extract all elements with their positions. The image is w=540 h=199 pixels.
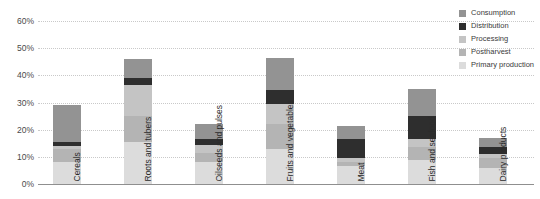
legend-item[interactable]: Processing [459, 34, 534, 44]
bar-segment[interactable] [266, 58, 294, 91]
legend-label: Consumption [471, 9, 515, 17]
category-label: Fruits and vegetables [286, 100, 295, 183]
y-axis-tick-label: 40% [17, 71, 34, 80]
legend-label: Processing [471, 35, 508, 43]
bar-segment[interactable] [124, 59, 152, 78]
category-label: Fish and seafood [427, 116, 436, 183]
bar-segment[interactable] [337, 139, 365, 158]
bar-segment[interactable] [124, 78, 152, 85]
stacked-bar-chart: 0%10%20%30%40%50%60% CerealsRoots and tu… [0, 0, 540, 199]
bar-segment[interactable] [408, 89, 436, 116]
legend-item[interactable]: Distribution [459, 21, 534, 31]
legend-label: Distribution [471, 22, 509, 30]
bar-segment[interactable] [124, 85, 152, 116]
bar-segment[interactable] [53, 105, 81, 142]
y-axis-tick-label: 30% [17, 98, 34, 107]
category-label: Meat [356, 162, 365, 183]
x-axis-line [38, 184, 534, 185]
category-label: Cereals [73, 152, 82, 183]
y-axis-tick-label: 60% [17, 17, 34, 26]
category-label: Roots and tubers [144, 116, 153, 183]
y-axis-tick-label: 20% [17, 125, 34, 134]
legend-label: Primary production [471, 61, 534, 69]
y-axis-tick-label: 0% [22, 180, 34, 189]
legend-swatch-icon [459, 10, 466, 17]
legend-swatch-icon [459, 36, 466, 43]
legend-swatch-icon [459, 49, 466, 56]
y-axis-tick-label: 10% [17, 153, 34, 162]
legend-item[interactable]: Consumption [459, 8, 534, 18]
category-label: Oilseeds and pulses [215, 104, 224, 183]
legend-swatch-icon [459, 23, 466, 30]
y-axis: 0%10%20%30%40%50%60% [0, 0, 36, 199]
legend-item[interactable]: Postharvest [459, 47, 534, 57]
legend-item[interactable]: Primary production [459, 60, 534, 70]
y-axis-tick-label: 50% [17, 44, 34, 53]
legend: ConsumptionDistributionProcessingPosthar… [459, 8, 534, 70]
legend-swatch-icon [459, 62, 466, 69]
category-label: Dairy products [498, 126, 507, 183]
bar-segment[interactable] [337, 126, 365, 140]
legend-label: Postharvest [471, 48, 511, 56]
